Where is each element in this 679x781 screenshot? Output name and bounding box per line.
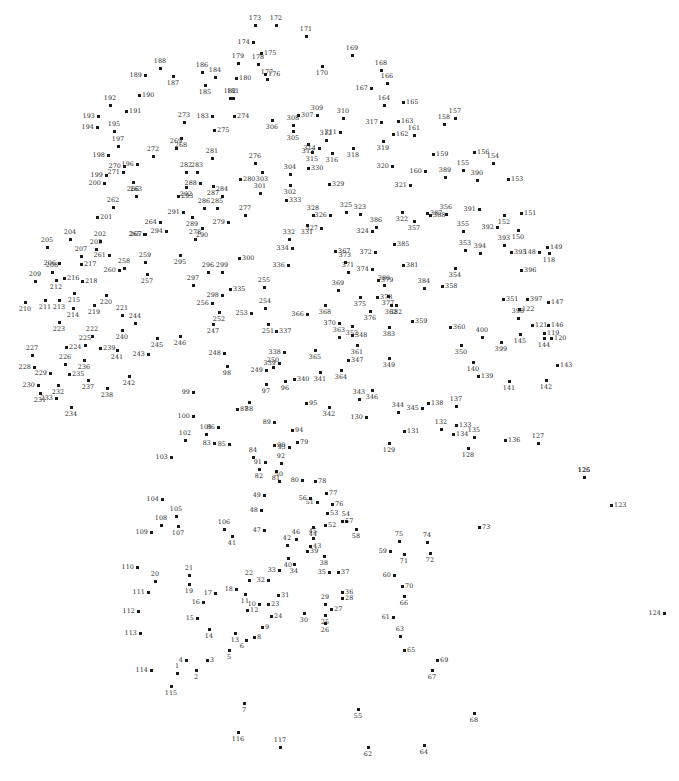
dot-label: 83 bbox=[203, 440, 211, 446]
dot-label: 394 bbox=[474, 243, 487, 249]
dot-label: 53 bbox=[330, 510, 338, 516]
dot-label: 237 bbox=[82, 384, 95, 390]
dot-label: 281 bbox=[206, 148, 219, 154]
dot-label: 111 bbox=[133, 589, 146, 595]
dot-marker bbox=[423, 287, 426, 290]
dot-label: 161 bbox=[408, 125, 421, 131]
dot-label: 378 bbox=[380, 294, 393, 300]
dot-label: 286 bbox=[198, 198, 211, 204]
dot-marker bbox=[196, 171, 199, 174]
dot-marker bbox=[237, 62, 240, 65]
dot-label: 249 bbox=[251, 367, 264, 373]
dot-marker bbox=[460, 344, 463, 347]
dot-label: 320 bbox=[377, 163, 390, 169]
dot-marker bbox=[147, 591, 150, 594]
dot-marker bbox=[192, 391, 195, 394]
dot-label: 241 bbox=[111, 354, 124, 360]
dot-marker bbox=[237, 731, 240, 734]
dot-marker bbox=[318, 147, 321, 150]
dot-marker bbox=[496, 226, 499, 229]
dot-label: 337 bbox=[279, 328, 292, 334]
dot-marker bbox=[440, 428, 443, 431]
dot-label: 317 bbox=[366, 119, 379, 125]
dot-marker bbox=[426, 541, 429, 544]
dot-label: 204 bbox=[64, 229, 77, 235]
dot-marker bbox=[264, 307, 267, 310]
dot-marker bbox=[191, 216, 194, 219]
dot-label: 197 bbox=[112, 136, 125, 142]
dot-marker bbox=[295, 538, 298, 541]
dot-marker bbox=[504, 439, 507, 442]
dot-label: 152 bbox=[498, 219, 511, 225]
dot-marker bbox=[503, 214, 506, 217]
dot-marker bbox=[273, 444, 276, 447]
dot-marker bbox=[537, 442, 540, 445]
dot-label: 80 bbox=[291, 477, 299, 483]
dot-marker bbox=[309, 497, 312, 500]
dot-marker bbox=[316, 114, 319, 117]
dot-marker bbox=[55, 397, 58, 400]
dot-marker bbox=[477, 375, 480, 378]
dot-label: 339 bbox=[264, 360, 277, 366]
dot-marker bbox=[109, 104, 112, 107]
dot-marker bbox=[213, 442, 216, 445]
dot-label: 31 bbox=[281, 592, 289, 598]
dot-marker bbox=[503, 244, 506, 247]
dot-marker bbox=[236, 408, 239, 411]
dot-marker bbox=[403, 553, 406, 556]
dot-label: 370 bbox=[324, 320, 337, 326]
dot-label: 98 bbox=[223, 370, 231, 376]
dot-label: 392 bbox=[482, 224, 495, 230]
dot-marker bbox=[325, 139, 328, 142]
dot-label: 140 bbox=[467, 366, 480, 372]
dot-marker bbox=[83, 359, 86, 362]
dot-marker bbox=[397, 120, 400, 123]
dot-marker bbox=[326, 512, 329, 515]
dot-label: 262 bbox=[107, 197, 120, 203]
dot-marker bbox=[73, 292, 76, 295]
dot-label: 22 bbox=[245, 570, 253, 576]
dot-marker bbox=[260, 509, 263, 512]
dot-marker bbox=[306, 224, 309, 227]
dot-marker bbox=[97, 115, 100, 118]
dot-marker bbox=[96, 126, 99, 129]
dot-label: 73 bbox=[482, 524, 490, 530]
dot-marker bbox=[399, 635, 402, 638]
dot-label: 79 bbox=[300, 439, 308, 445]
dot-label: 143 bbox=[560, 362, 573, 368]
dot-marker bbox=[454, 117, 457, 120]
dot-label: 386 bbox=[370, 217, 383, 223]
dot-marker bbox=[287, 557, 290, 560]
dot-marker bbox=[292, 124, 295, 127]
dot-label: 170 bbox=[316, 70, 329, 76]
dot-label: 255 bbox=[258, 277, 271, 283]
dot-marker bbox=[63, 277, 66, 280]
dot-marker bbox=[328, 571, 331, 574]
dot-label: 274 bbox=[237, 113, 250, 119]
dot-label: 267 bbox=[130, 231, 143, 237]
dot-marker bbox=[223, 528, 226, 531]
dot-label: 172 bbox=[270, 15, 283, 21]
dot-label: 368 bbox=[319, 309, 332, 315]
dot-marker bbox=[351, 54, 354, 57]
dot-marker bbox=[238, 257, 241, 260]
dot-marker bbox=[206, 659, 209, 662]
dot-label: 355 bbox=[457, 221, 470, 227]
dot-marker bbox=[221, 294, 224, 297]
dot-marker bbox=[146, 273, 149, 276]
dot-marker bbox=[421, 407, 424, 410]
dot-marker bbox=[324, 524, 327, 527]
dot-marker bbox=[351, 325, 354, 328]
dot-marker bbox=[545, 379, 548, 382]
dot-label: 325 bbox=[340, 202, 353, 208]
connect-the-dots-canvas: 1234567891011121314151617181920212223242… bbox=[0, 0, 679, 781]
dot-marker bbox=[128, 375, 131, 378]
dot-marker bbox=[252, 41, 255, 44]
dot-marker bbox=[344, 261, 347, 264]
dot-marker bbox=[159, 67, 162, 70]
dot-marker bbox=[543, 337, 546, 340]
dot-marker bbox=[264, 461, 267, 464]
dot-marker bbox=[305, 35, 308, 38]
dot-marker bbox=[402, 101, 405, 104]
dot-label: 110 bbox=[122, 564, 135, 570]
